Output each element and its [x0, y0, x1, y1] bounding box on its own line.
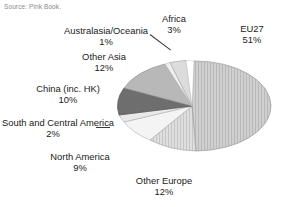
pie-chart-figure: Source: Pink Book. [0, 0, 282, 207]
pie-label-china-value: 10% [16, 95, 120, 106]
pie-label-eu27-value: 51% [224, 35, 280, 46]
pie-label-australasia-oceania: Australasia/Oceania 1% [36, 26, 176, 47]
pie-label-australasia-oceania-text: Australasia/Oceania [64, 25, 148, 36]
pie-label-north-america-text: North America [50, 151, 109, 162]
pie-label-other-asia-value: 12% [52, 63, 156, 74]
pie-label-eu27: EU27 51% [224, 24, 280, 45]
pie-label-australasia-oceania-value: 1% [36, 37, 176, 48]
pie-top-faces [118, 60, 271, 151]
pie-label-south-central-america: South and Central America 2% [2, 118, 104, 139]
pie-label-china: China (inc. HK) 10% [16, 84, 120, 105]
pie-label-south-central-america-text: South and Central America [2, 117, 114, 128]
pie-label-china-text: China (inc. HK) [36, 83, 100, 94]
pie-label-other-asia: Other Asia 12% [52, 52, 156, 73]
source-note: Source: Pink Book. [4, 3, 61, 10]
pie-label-africa-text: Africa [162, 13, 186, 24]
pie-label-south-central-america-value: 2% [2, 129, 104, 140]
pie-label-other-asia-text: Other Asia [82, 51, 126, 62]
pie-label-eu27-text: EU27 [240, 23, 263, 34]
pie-slice-eu27 [192, 61, 271, 151]
pie-label-north-america: North America 9% [30, 152, 130, 173]
pie-label-other-europe-value: 12% [112, 187, 216, 198]
pie-label-other-europe: Other Europe 12% [112, 176, 216, 197]
pie-label-other-europe-text: Other Europe [136, 175, 192, 186]
pie-label-north-america-value: 9% [30, 163, 130, 174]
